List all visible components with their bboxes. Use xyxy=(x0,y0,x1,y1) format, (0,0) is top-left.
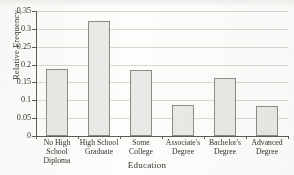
y-tick-mark xyxy=(32,118,37,119)
y-tick-mark xyxy=(32,29,37,30)
y-tick-mark xyxy=(32,82,37,83)
y-tick-label: 0.2 xyxy=(1,61,31,69)
x-tick-mark xyxy=(162,136,163,139)
x-tick-mark xyxy=(78,136,79,139)
y-tick-label: 0.15 xyxy=(1,78,31,86)
x-category-label: AdvancedDegree xyxy=(242,138,292,156)
y-axis-ticks: 00.050.10.150.20.250.30.35 xyxy=(0,0,31,175)
bar xyxy=(46,69,68,136)
y-tick-label: 0.35 xyxy=(1,7,31,15)
y-tick-label: 0.25 xyxy=(1,43,31,51)
x-category-line: Advanced xyxy=(242,138,292,147)
bar xyxy=(214,78,236,136)
bar xyxy=(256,106,278,136)
bar xyxy=(88,21,110,136)
x-tick-mark xyxy=(288,136,289,139)
y-tick-label: 0.05 xyxy=(1,114,31,122)
x-tick-mark xyxy=(120,136,121,139)
y-tick-mark xyxy=(32,100,37,101)
bar-series xyxy=(36,11,288,136)
chart-title-clipped xyxy=(62,0,232,1)
y-tick-mark xyxy=(32,65,37,66)
bar xyxy=(130,70,152,136)
y-tick-label: 0.1 xyxy=(1,96,31,104)
chart-figure: Relative Frequency 00.050.10.150.20.250.… xyxy=(0,0,294,175)
y-tick-mark xyxy=(32,11,37,12)
x-tick-mark xyxy=(204,136,205,139)
x-category-line: Degree xyxy=(242,147,292,156)
x-axis-title: Education xyxy=(0,160,294,170)
y-tick-mark xyxy=(32,136,37,137)
y-tick-mark xyxy=(32,47,37,48)
x-tick-mark xyxy=(246,136,247,139)
y-tick-label: 0.3 xyxy=(1,25,31,33)
bar xyxy=(172,105,194,136)
y-tick-label: 0 xyxy=(1,132,31,140)
